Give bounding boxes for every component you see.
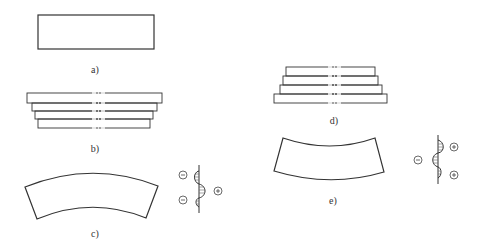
panel-b-label: b): [91, 143, 99, 154]
panel-e-bent-plate: [274, 138, 384, 180]
panel-c-bent-plate: [25, 173, 158, 219]
panel-e-stress-diagram: [414, 135, 458, 184]
panel-c-stress-diagram: [179, 165, 222, 213]
panel-a-plate: [38, 15, 154, 49]
panel-d-label: d): [330, 115, 338, 126]
diagram-canvas: [0, 0, 479, 250]
panel-c-label: c): [91, 228, 99, 239]
panel-e-label: e): [329, 195, 337, 206]
panel-a-label: a): [91, 64, 99, 75]
